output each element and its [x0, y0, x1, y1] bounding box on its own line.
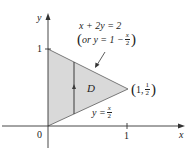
vertex-fraction: 1 2	[145, 82, 151, 97]
y-tick-label: 1	[37, 44, 42, 54]
vertex-point-label: ( 1, 1 2 )	[131, 82, 156, 97]
upper-boundary-alt-equation: ( or y = 1 − x 2 )	[77, 32, 136, 47]
origin-label: 0	[37, 130, 42, 140]
lower-fraction: x 2	[107, 105, 112, 120]
y-axis-label: y	[37, 13, 41, 23]
close-paren: )	[131, 32, 136, 47]
x-axis-label: x	[179, 130, 183, 140]
alt-fraction: x 2	[125, 32, 130, 47]
pointer-line	[97, 52, 105, 65]
upper-boundary-equation: x + 2y = 2	[79, 21, 121, 31]
region-label: D	[87, 83, 95, 94]
region-diagram: y x 0 1 1 D x + 2y = 2 ( or y = 1 − x 2 …	[0, 0, 193, 160]
alt-prefix: or y = 1 −	[82, 35, 124, 45]
x-axis-arrow-icon	[178, 124, 185, 129]
pointer-arrow-icon	[95, 63, 100, 69]
y-axis-arrow-icon	[46, 13, 51, 20]
lower-boundary-equation: y = x 2	[92, 105, 113, 120]
x-tick-label: 1	[124, 131, 129, 141]
